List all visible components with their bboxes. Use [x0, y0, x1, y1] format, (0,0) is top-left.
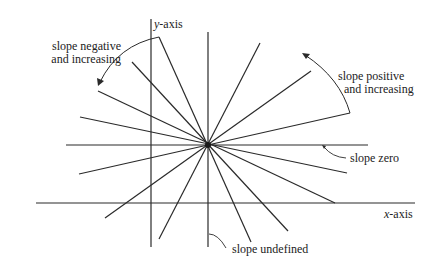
label-slope-positive: slope positive and increasing [338, 70, 414, 96]
line-neg-shallow [98, 91, 335, 203]
arrowhead-negative [97, 78, 104, 86]
label-slope-zero: slope zero [350, 152, 399, 165]
label-slope-negative: slope negative and increasing [37, 40, 121, 66]
x-axis-label: x-axis [384, 208, 413, 221]
leader-slope-zero [324, 147, 346, 158]
line-pos-steep [159, 43, 260, 239]
label-slope-undefined: slope undefined [232, 243, 308, 256]
x-axis-rest: -axis [389, 207, 412, 221]
origin-point [205, 142, 211, 148]
label-negative-line2: and increasing [37, 53, 121, 66]
y-axis-label: y-axis [154, 18, 183, 31]
y-axis-rest: -axis [159, 17, 182, 31]
leader-slope-undefined [209, 234, 226, 248]
label-positive-line2: and increasing [338, 83, 414, 96]
